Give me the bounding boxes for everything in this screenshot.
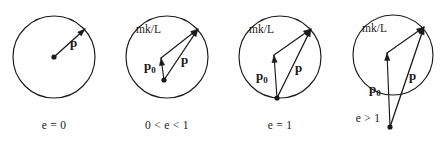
label-p: p <box>295 60 302 75</box>
panel-caption: e > 1 <box>356 112 381 124</box>
vector-p-line <box>390 27 424 127</box>
label-p-zero: p0 <box>369 81 381 98</box>
label-p: p <box>181 52 188 67</box>
vector-p0-arrowhead-icon <box>159 58 164 66</box>
label-p: p <box>409 68 416 83</box>
label-p: p <box>70 35 77 50</box>
figure-container: pe = 0pp0mk/L0 < e < 1pp0mk/Le = 1pp0mk/… <box>0 0 440 143</box>
label-p-zero-subscript: 0 <box>263 75 268 85</box>
origin-dot <box>387 124 392 129</box>
panels-group: pe = 0pp0mk/L0 < e < 1pp0mk/Le = 1pp0mk/… <box>13 15 433 131</box>
vector-p-line <box>277 29 311 98</box>
vector-p0-arrowhead-icon <box>385 53 390 61</box>
origin-dot <box>274 95 279 100</box>
panel-caption: 0 < e < 1 <box>145 119 189 131</box>
hodograph-figure: pe = 0pp0mk/L0 < e < 1pp0mk/Le = 1pp0mk/… <box>0 0 440 143</box>
label-mk-over-L: mk/L <box>362 22 387 34</box>
panel-e-between-zero-and-one: pp0mk/L0 < e < 1 <box>126 16 208 131</box>
label-p-zero-subscript: 0 <box>376 88 381 98</box>
panel-caption: e = 1 <box>268 119 293 131</box>
panel-e-one: pp0mk/Le = 1 <box>239 16 321 131</box>
origin-dot <box>51 54 56 59</box>
vector-p0-line <box>387 53 390 127</box>
label-p-zero: p0 <box>144 58 156 75</box>
label-p-zero-subscript: 0 <box>151 65 156 75</box>
panel-e-zero: pe = 0 <box>13 16 95 131</box>
label-mk-over-L: mk/L <box>136 23 161 35</box>
origin-dot <box>161 77 166 82</box>
panel-caption: e = 0 <box>42 119 67 131</box>
label-mk-over-L: mk/L <box>249 23 274 35</box>
label-p-zero: p0 <box>256 68 268 85</box>
vector-p0-arrowhead-icon <box>272 55 277 63</box>
panel-e-greater-than-one: pp0mk/Le > 1 <box>353 15 433 130</box>
